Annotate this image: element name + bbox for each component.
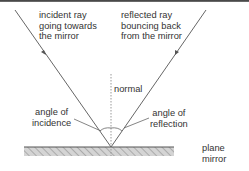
plane-mirror-label: plane mirror — [202, 143, 226, 164]
arrow-icon — [175, 50, 179, 55]
normal-label: normal — [114, 84, 142, 95]
label-line: normal — [114, 84, 142, 95]
label-line: incident ray — [39, 10, 97, 21]
angle-of-reflection-arc — [111, 128, 122, 131]
label-line: reflected ray — [121, 10, 182, 21]
label-line: angle of — [150, 108, 188, 119]
angle-of-incidence-label: angle of incidence — [32, 107, 71, 128]
plane-mirror — [24, 147, 174, 156]
label-line: plane — [202, 143, 226, 154]
label-line: angle of — [32, 107, 71, 118]
reflected-ray-label: reflected ray bouncing back from the mir… — [121, 10, 182, 42]
label-line: the mirror — [39, 31, 97, 42]
angle-of-reflection-label: angle of reflection — [150, 108, 188, 129]
incident-ray-label: incident ray going towards the mirror — [39, 10, 97, 42]
label-line: from the mirror — [121, 31, 182, 42]
label-line: reflection — [150, 119, 188, 130]
angle-of-incidence-arc — [100, 128, 111, 131]
incidence-leader — [74, 119, 101, 131]
label-line: incidence — [32, 118, 71, 129]
label-line: bouncing back — [121, 21, 182, 32]
label-line: going towards — [39, 21, 97, 32]
label-line: mirror — [202, 154, 226, 165]
